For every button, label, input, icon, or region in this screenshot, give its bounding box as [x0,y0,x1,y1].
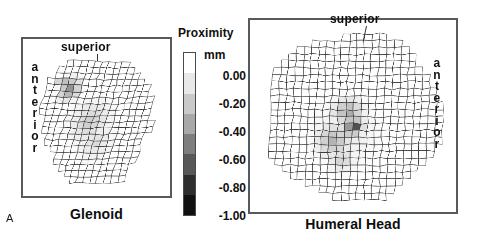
humeral-head-panel [248,18,458,214]
colorbar-band-4 [184,134,195,154]
colorbar-band-7 [184,195,195,215]
colorbar-band-5 [184,154,195,174]
colorbar-title: Proximity [178,26,234,40]
colorbar-tick-2: -0.40 [200,125,246,139]
colorbar-band-1 [184,73,195,93]
panel-letter-a: A [6,212,13,224]
humeral-head-proximity-map [250,20,456,212]
letter-r2: r [430,139,444,151]
glenoid-panel [21,37,172,198]
colorbar-band-6 [184,175,195,195]
colorbar-tick-1: -0.20 [200,97,246,111]
colorbar-gradient [183,52,196,216]
colorbar-tick-4: -0.80 [200,181,246,195]
glenoid-superior-label: superior [61,40,111,54]
proximity-colorbar: Proximity mm 0.00-0.20-0.40-0.60-0.80-1.… [178,26,250,201]
colorbar-tick-0: 0.00 [200,69,246,83]
humeral-anterior-label: a n t e r i o r [430,58,444,150]
letter-r2: r [28,143,42,155]
humeral-head-caption: Humeral Head [248,216,458,232]
glenoid-proximity-map [23,39,170,196]
glenoid-caption: Glenoid [21,206,172,222]
proximity-figure: superior a n t e r i o r Glenoid Proximi… [0,0,481,241]
glenoid-anterior-label: a n t e r i o r [28,62,42,154]
colorbar-band-2 [184,94,195,114]
colorbar-tick-3: -0.60 [200,153,246,167]
colorbar-band-0 [184,53,195,73]
colorbar-band-3 [184,114,195,134]
colorbar-tick-5: -1.00 [200,209,246,223]
humeral-superior-label: superior [330,12,380,26]
glenoid-superior-leader-line [97,54,98,61]
colorbar-tick-labels: 0.00-0.20-0.40-0.60-0.80-1.00 [200,52,250,216]
